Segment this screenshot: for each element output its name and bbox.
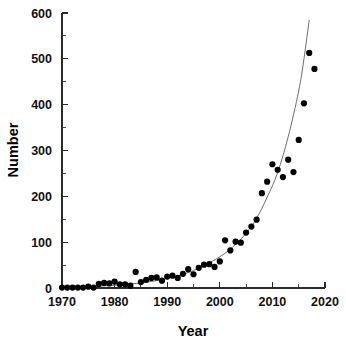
minor-tick-group: [62, 36, 299, 288]
data-point: [206, 261, 212, 267]
data-point: [106, 280, 112, 286]
data-point: [175, 275, 181, 281]
data-point: [112, 278, 118, 284]
data-point: [227, 247, 233, 253]
data-point: [311, 66, 317, 72]
data-point: [301, 100, 307, 106]
data-point: [80, 284, 86, 290]
data-point: [180, 271, 186, 277]
data-point: [254, 217, 260, 223]
y-tick-label: 500: [31, 52, 52, 66]
y-tick-label: 200: [31, 190, 52, 204]
data-point: [243, 229, 249, 235]
data-point: [101, 280, 107, 286]
x-axis-title: Year: [178, 323, 209, 339]
data-point: [133, 269, 139, 275]
y-axis-tick-labels: 0100200300400500600: [31, 7, 52, 296]
fit-curve: [62, 20, 309, 288]
data-point: [238, 240, 244, 246]
x-tick-label: 2000: [206, 295, 234, 309]
data-point: [143, 277, 149, 283]
data-point: [154, 274, 160, 280]
data-point: [275, 167, 281, 173]
data-point: [259, 190, 265, 196]
data-point: [159, 278, 165, 284]
data-point: [248, 223, 254, 229]
x-axis-tick-labels: 197019801990200020102020: [48, 295, 339, 309]
major-tick-group: [62, 13, 325, 288]
data-point: [122, 281, 128, 287]
data-point: [148, 275, 154, 281]
x-tick-label: 2020: [311, 295, 339, 309]
data-point: [211, 264, 217, 270]
data-point: [127, 283, 133, 289]
data-point: [201, 262, 207, 268]
y-tick-label: 300: [31, 144, 52, 158]
data-point: [96, 281, 102, 287]
chart-container: 197019801990200020102020 010020030040050…: [0, 0, 346, 342]
x-tick-label: 2010: [258, 295, 286, 309]
data-point: [222, 237, 228, 243]
data-point: [280, 174, 286, 180]
scatter-plot: 197019801990200020102020 010020030040050…: [0, 0, 346, 342]
data-point: [290, 169, 296, 175]
data-point: [269, 161, 275, 167]
data-point: [85, 284, 91, 290]
y-axis-title: Number: [5, 122, 21, 177]
x-tick-label: 1970: [48, 295, 76, 309]
y-tick-label: 400: [31, 98, 52, 112]
data-point: [90, 284, 96, 290]
data-point: [264, 179, 270, 185]
x-tick-label: 1980: [101, 295, 129, 309]
y-tick-label: 0: [45, 282, 52, 296]
data-point: [217, 258, 223, 264]
x-tick-label: 1990: [153, 295, 181, 309]
data-point: [190, 271, 196, 277]
data-points-group: [59, 50, 318, 291]
data-point: [296, 137, 302, 143]
data-point: [306, 50, 312, 56]
y-tick-label: 600: [31, 7, 52, 21]
data-point: [196, 265, 202, 271]
data-point: [285, 157, 291, 163]
y-tick-label: 100: [31, 236, 52, 250]
data-point: [185, 266, 191, 272]
data-point: [232, 239, 238, 245]
data-point: [164, 273, 170, 279]
